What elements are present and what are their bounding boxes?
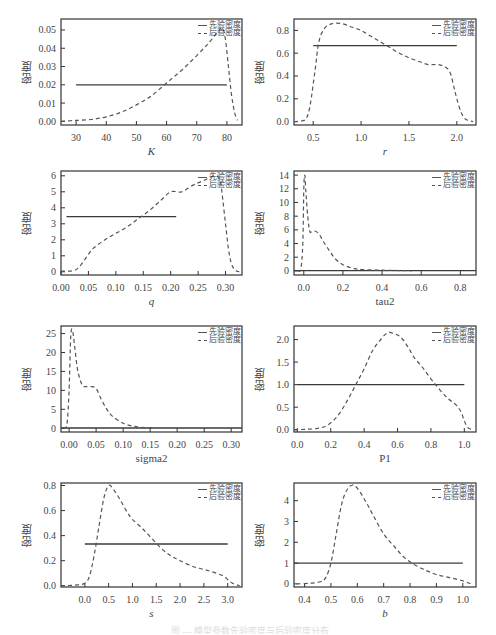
x-tick-label: 0.4 (298, 594, 311, 605)
y-tick-label: 2 (284, 537, 289, 548)
solid-line-swatch-icon (432, 489, 441, 490)
x-tick-label: 1.0 (457, 594, 470, 605)
x-axis-label: b (294, 607, 476, 619)
y-tick-label: 4 (284, 495, 289, 506)
legend-item-posterior: 后验密度 (432, 493, 475, 501)
x-tick-label: 0.9 (430, 594, 443, 605)
dashed-line-swatch-icon (432, 497, 441, 498)
legend-label: 后验密度 (443, 493, 475, 501)
density-plot-b: 012340.40.50.60.70.80.91.0 (0, 0, 496, 635)
x-tick-label: 0.7 (377, 594, 390, 605)
legend: 先验密度后验密度 (432, 485, 475, 501)
y-tick-label: 0 (284, 578, 289, 589)
x-tick-label: 0.8 (404, 594, 417, 605)
y-tick-label: 1 (284, 558, 289, 569)
x-tick-label: 0.6 (351, 594, 364, 605)
figure-caption: 图 — 模型参数先验密度与后验密度分布 (90, 624, 410, 634)
y-axis-label: 密度 (252, 523, 268, 547)
x-tick-label: 0.5 (325, 594, 338, 605)
y-tick-label: 3 (284, 516, 289, 527)
